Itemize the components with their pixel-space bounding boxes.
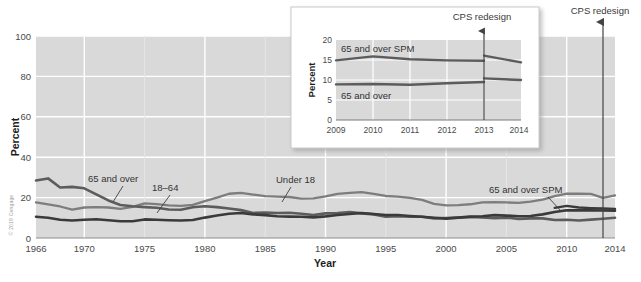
main-y-tick-60: 60 [20,111,31,122]
main-y-axis-title: Percent [9,117,21,156]
inset-y-tick-15: 15 [323,55,333,65]
copyright-credit: © 2019 Cengage [8,185,14,245]
main-x-tick-1966: 1966 [25,243,46,254]
main-x-axis-title: Year [314,257,336,269]
chart-svg: 100 80 60 40 20 0 Percent 1966 1970 1975… [0,0,641,282]
main-y-tick-0: 0 [26,233,31,244]
inset-x-tick-2010: 2010 [364,125,383,135]
inset-cps-redesign-label: CPS redesign [453,11,512,22]
main-x-tick-2014: 2014 [604,243,625,254]
inset-label-65-and-over: 65 and over [341,90,391,101]
inset-y-tick-5: 5 [327,95,332,105]
label-under-18: Under 18 [276,174,315,185]
main-x-tick-1985: 1985 [255,243,276,254]
inset-y-tick-20: 20 [323,35,333,45]
main-x-tick-1980: 1980 [194,243,215,254]
inset-x-tick-2009: 2009 [327,125,346,135]
main-x-tick-2000: 2000 [436,243,457,254]
label-65-and-over: 65 and over [88,173,138,184]
inset-chart: 20 15 10 5 0 Percent 2009 2010 2011 2012… [291,7,539,148]
cps-redesign-label: CPS redesign [571,5,630,16]
inset-series-line-65-post [484,78,521,80]
main-y-tick-100: 100 [15,31,31,42]
inset-x-tick-2011: 2011 [401,125,420,135]
main-x-ticks: 1966 1970 1975 1980 1985 1990 1995 2000 … [25,243,625,254]
inset-x-tick-2013: 2013 [475,125,494,135]
inset-x-tick-2014: 2014 [510,125,529,135]
main-x-tick-2010: 2010 [556,243,577,254]
label-65-and-over-spm: 65 and over SPM [489,184,562,195]
main-x-tick-1975: 1975 [134,243,155,254]
inset-y-tick-0: 0 [327,115,332,125]
main-y-tick-20: 20 [20,192,31,203]
main-x-tick-1970: 1970 [74,243,95,254]
poverty-rate-figure: 100 80 60 40 20 0 Percent 1966 1970 1975… [0,0,641,282]
inset-label-spm: 65 and over SPM [341,43,414,54]
inset-x-tick-2012: 2012 [438,125,457,135]
main-y-tick-40: 40 [20,152,31,163]
inset-y-axis-title: Percent [306,62,317,98]
main-x-tick-1995: 1995 [375,243,396,254]
label-18-64: 18–64 [152,182,178,193]
main-y-tick-80: 80 [20,71,31,82]
inset-y-tick-10: 10 [323,75,333,85]
main-x-tick-2005: 2005 [496,243,517,254]
main-x-tick-1990: 1990 [315,243,336,254]
